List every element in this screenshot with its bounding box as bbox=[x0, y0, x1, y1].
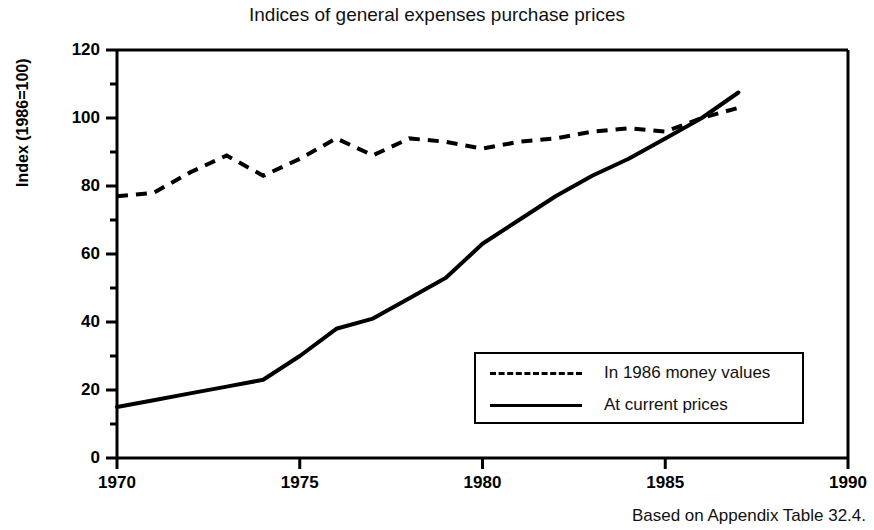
x-axis-ticks bbox=[117, 458, 848, 469]
legend-swatch-solid bbox=[490, 398, 582, 412]
x-tick-label: 1985 bbox=[630, 474, 700, 491]
legend-label-0: In 1986 money values bbox=[604, 363, 770, 383]
y-tick-label: 120 bbox=[40, 41, 100, 58]
y-tick-label: 80 bbox=[40, 177, 100, 194]
series-line-in-1986-money-values bbox=[117, 108, 738, 196]
chart-figure: Indices of general expenses purchase pri… bbox=[0, 0, 874, 530]
legend-label-1: At current prices bbox=[604, 395, 728, 415]
y-tick-label: 100 bbox=[40, 109, 100, 126]
source-caption: Based on Appendix Table 32.4. bbox=[632, 506, 866, 526]
legend-item-at-current-prices: At current prices bbox=[476, 388, 802, 422]
y-axis-ticks bbox=[106, 50, 117, 458]
chart-legend: In 1986 money values At current prices bbox=[474, 352, 804, 424]
plot-area bbox=[0, 0, 874, 530]
y-tick-label: 0 bbox=[40, 449, 100, 466]
y-tick-label: 60 bbox=[40, 245, 100, 262]
x-tick-label: 1980 bbox=[448, 474, 518, 491]
x-tick-label: 1970 bbox=[82, 474, 152, 491]
y-tick-label: 20 bbox=[40, 381, 100, 398]
legend-item-in-1986-money-values: In 1986 money values bbox=[476, 356, 802, 390]
x-tick-label: 1990 bbox=[813, 474, 874, 491]
x-tick-label: 1975 bbox=[265, 474, 335, 491]
legend-swatch-dashed bbox=[490, 366, 582, 380]
y-tick-label: 40 bbox=[40, 313, 100, 330]
